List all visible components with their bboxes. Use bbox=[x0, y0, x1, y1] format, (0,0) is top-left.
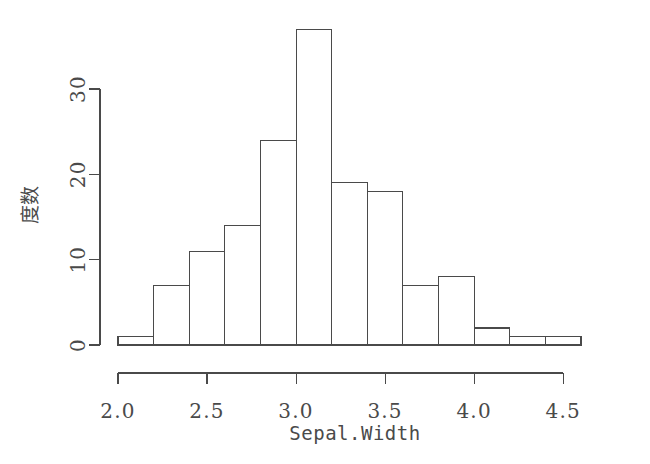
x-tick-label: 3.5 bbox=[367, 399, 402, 423]
y-axis bbox=[89, 89, 100, 345]
histogram-bar bbox=[367, 191, 403, 345]
histogram-bar bbox=[225, 226, 261, 345]
y-tick-label: 20 bbox=[66, 160, 90, 188]
x-tick-labels: 2.02.53.03.54.04.5 bbox=[100, 399, 581, 423]
x-tick-label: 2.0 bbox=[100, 399, 135, 423]
y-axis-title: 度数 bbox=[19, 186, 41, 224]
x-tick-label: 2.5 bbox=[189, 399, 224, 423]
histogram-plot: 0102030 2.02.53.03.54.04.5 Sepal.Width度数… bbox=[0, 0, 650, 464]
x-axis-title: Sepal.Width bbox=[289, 422, 420, 444]
y-tick-label: 10 bbox=[66, 246, 90, 274]
y-tick-labels: 0102030 bbox=[66, 75, 90, 352]
x-axis bbox=[118, 373, 563, 384]
y-tick-label: 30 bbox=[66, 75, 90, 103]
histogram-bar bbox=[545, 336, 581, 345]
histogram-bar bbox=[474, 328, 510, 345]
bars-group bbox=[118, 29, 581, 345]
x-tick-label: 4.0 bbox=[456, 399, 491, 423]
x-tick-label: 4.5 bbox=[545, 399, 580, 423]
histogram-bar bbox=[510, 336, 546, 345]
histogram-bar bbox=[439, 277, 475, 345]
histogram-bar bbox=[260, 140, 296, 345]
histogram-bar bbox=[118, 336, 154, 345]
histogram-bar bbox=[332, 183, 368, 345]
plot-canvas: 0102030 2.02.53.03.54.04.5 Sepal.Width度数 bbox=[0, 0, 650, 464]
histogram-bar bbox=[296, 29, 332, 345]
x-tick-label: 3.0 bbox=[278, 399, 313, 423]
histogram-bar bbox=[154, 285, 190, 345]
histogram-bar bbox=[403, 285, 439, 345]
histogram-bar bbox=[189, 251, 225, 345]
y-tick-label: 0 bbox=[66, 338, 90, 352]
